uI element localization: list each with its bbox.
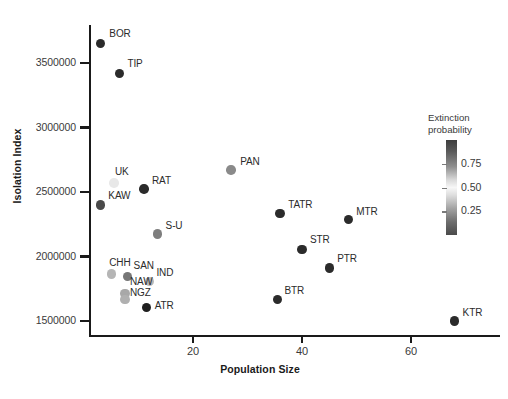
data-point[interactable] — [96, 39, 106, 49]
y-tick-mark — [80, 126, 89, 128]
y-tick-label: 1500000 — [0, 314, 76, 326]
data-point[interactable] — [120, 295, 130, 305]
data-point-label: PAN — [240, 156, 260, 167]
colorbar-legend: Extinction probability 0.750.500.25 — [428, 112, 508, 135]
x-tick-label: 20 — [173, 345, 213, 357]
data-point-label: SAN — [134, 260, 154, 271]
data-point-label: TATR — [288, 199, 312, 210]
data-point[interactable] — [109, 178, 119, 188]
data-point-label: NAW — [130, 276, 153, 287]
data-point-label: BOR — [109, 28, 130, 39]
x-tick-mark — [410, 335, 412, 343]
data-point-label: NGZ — [130, 287, 151, 298]
data-point[interactable] — [142, 303, 152, 313]
x-axis-line — [89, 335, 500, 337]
y-tick-label: 3500000 — [0, 56, 76, 68]
y-axis-line — [89, 25, 91, 337]
data-point-label: IND — [156, 267, 173, 278]
y-tick-label: 2000000 — [0, 250, 76, 262]
data-point-label: S-U — [166, 220, 183, 231]
data-point-label: RAT — [152, 175, 171, 186]
data-point[interactable] — [325, 263, 335, 273]
data-point-label: MTR — [356, 206, 377, 217]
data-point[interactable] — [96, 200, 106, 210]
colorbar-gradient — [446, 140, 457, 235]
data-point[interactable] — [139, 184, 149, 194]
colorbar-tick-label: 0.75 — [461, 157, 481, 169]
data-point[interactable] — [275, 209, 285, 219]
data-point-label: TIP — [127, 58, 142, 69]
data-point[interactable] — [226, 165, 236, 175]
y-tick-mark — [80, 62, 89, 64]
scatter-plot-figure: 15000002000000250000030000003500000 2040… — [0, 0, 508, 399]
data-point[interactable] — [297, 245, 307, 255]
data-point-label: CHH — [109, 257, 130, 268]
data-point-label: KTR — [463, 307, 483, 318]
x-axis-title: Population Size — [150, 363, 370, 375]
data-point-label: STR — [310, 234, 330, 245]
data-point[interactable] — [450, 316, 460, 326]
colorbar-tick-mark — [442, 211, 447, 212]
colorbar-title-line1: Extinction — [428, 112, 506, 124]
colorbar-tick-mark — [442, 164, 447, 165]
data-point-label: UK — [115, 166, 129, 177]
colorbar-tick-label: 0.50 — [461, 181, 481, 193]
data-point-label: BTR — [284, 285, 304, 296]
x-tick-label: 60 — [391, 345, 431, 357]
data-point[interactable] — [115, 69, 125, 79]
x-tick-mark — [192, 335, 194, 343]
x-tick-mark — [301, 335, 303, 343]
data-point[interactable] — [344, 215, 354, 225]
data-point-label: ATR — [155, 300, 174, 311]
colorbar-title: Extinction probability — [428, 112, 506, 135]
colorbar-tick-label: 0.25 — [461, 204, 481, 216]
data-point-label: PTR — [337, 253, 357, 264]
x-tick-label: 40 — [282, 345, 322, 357]
data-point[interactable] — [273, 295, 283, 305]
colorbar-tick-mark — [442, 188, 447, 189]
data-point-label: KAW — [108, 190, 130, 201]
y-tick-mark — [80, 191, 89, 193]
colorbar-title-line2: probability — [428, 124, 506, 136]
y-tick-mark — [80, 255, 89, 257]
data-point[interactable] — [153, 229, 163, 239]
y-tick-mark — [80, 320, 89, 322]
y-axis-title: Isolation Index — [11, 106, 23, 226]
data-point[interactable] — [107, 269, 117, 279]
